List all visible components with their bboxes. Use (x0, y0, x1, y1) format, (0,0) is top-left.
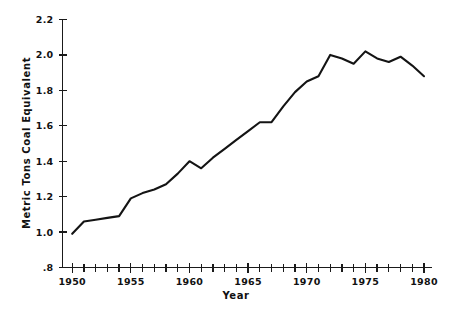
y-tick-label: 1.6 (36, 120, 54, 131)
y-tick-label: 1.2 (36, 191, 54, 202)
x-tick-label: 1960 (176, 276, 204, 287)
x-tick-label: 1955 (117, 276, 145, 287)
x-axis-title: Year (221, 290, 249, 301)
y-tick-label: 1.4 (36, 156, 54, 167)
y-axis-title: Metric Tons Coal Equivalent (21, 57, 32, 229)
data-series-line (72, 51, 424, 233)
x-tick-label: 1975 (352, 276, 380, 287)
x-tick-label: 1950 (58, 276, 86, 287)
chart-figure: .81.01.21.41.61.82.02.2 1950195519601965… (0, 0, 453, 312)
y-tick-label: 1.0 (36, 227, 54, 238)
y-tick-label: 1.8 (36, 85, 54, 96)
x-tick-label: 1965 (234, 276, 262, 287)
line-chart-canvas: .81.01.21.41.61.82.02.2 1950195519601965… (0, 0, 453, 312)
x-axis-tick-labels: 1950195519601965197019751980 (58, 276, 438, 287)
x-tick-label: 1970 (293, 276, 321, 287)
x-tick-label: 1980 (410, 276, 438, 287)
y-tick-label: .8 (43, 262, 54, 273)
y-tick-label: 2.2 (36, 14, 54, 25)
y-axis-tick-labels: .81.01.21.41.61.82.02.2 (36, 14, 54, 273)
y-tick-label: 2.0 (36, 49, 54, 60)
x-axis: 1950195519601965197019751980 (58, 263, 438, 287)
y-axis: .81.01.21.41.61.82.02.2 (36, 14, 67, 273)
